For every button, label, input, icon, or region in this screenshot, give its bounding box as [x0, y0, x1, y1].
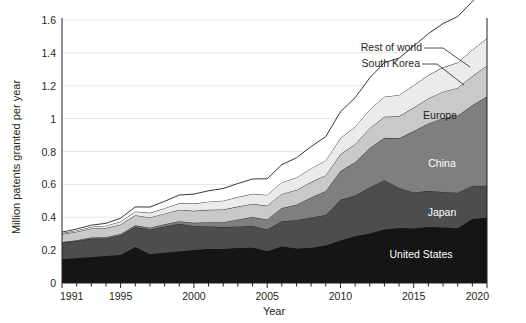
y-tick-label: 0.2	[41, 244, 56, 256]
x-tick-label: 2000	[182, 290, 206, 302]
x-tick-label: 1991	[60, 290, 84, 302]
y-axis-title: Million patents granted per year	[10, 80, 22, 234]
x-tick-label: 2015	[402, 290, 426, 302]
y-tick-label: 1	[50, 113, 56, 125]
chart-svg: 00.20.40.60.811.21.41.6 1991199520002005…	[0, 0, 526, 323]
x-tick-label-group: 1991199520002005201020152020	[60, 290, 489, 302]
y-tick-label: 0.8	[41, 146, 56, 158]
y-tick-label-group: 00.20.40.60.811.21.41.6	[41, 14, 56, 289]
x-tick-label: 2010	[329, 290, 353, 302]
callout-label-rest-of-world: Rest of world	[361, 41, 422, 53]
x-tick-label: 2005	[255, 290, 279, 302]
y-tick-label: 1.2	[41, 80, 56, 92]
x-tick-label: 2020	[466, 290, 490, 302]
y-tick-label: 1.6	[41, 14, 56, 26]
x-axis-title: Year	[263, 305, 286, 317]
series-label-japan: Japan	[428, 206, 457, 218]
callout-label-south-korea: South Korea	[362, 57, 421, 69]
x-tick-label: 1995	[109, 290, 133, 302]
y-tick-label: 0.4	[41, 211, 56, 223]
series-label-china: China	[428, 157, 456, 169]
patents-stacked-area-chart: 00.20.40.60.811.21.41.6 1991199520002005…	[0, 0, 526, 323]
y-tick-label: 0.6	[41, 178, 56, 190]
y-tick-label: 0	[50, 277, 56, 289]
series-label-united-states: United States	[389, 248, 452, 260]
y-tick-label: 1.4	[41, 47, 56, 59]
series-label-europe: Europe	[423, 109, 457, 121]
